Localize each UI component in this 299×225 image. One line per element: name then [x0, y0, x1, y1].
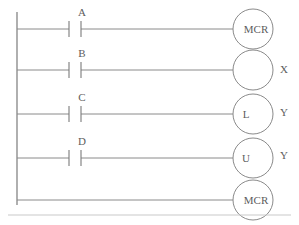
- coil-circle: [233, 94, 273, 134]
- ladder-logic-diagram: A MCR B X: [0, 0, 299, 225]
- rung-4: D U Y: [17, 135, 288, 178]
- rung-5: MCR: [17, 180, 273, 220]
- coil-circle: [233, 50, 273, 90]
- rung-1-coil-inner-label: MCR: [244, 23, 269, 35]
- ladder-diagram-canvas: A MCR B X: [0, 0, 299, 225]
- rung-1-contact-A[interactable]: [69, 21, 81, 37]
- rung-3-coil[interactable]: L: [233, 94, 273, 134]
- rung-2-coil[interactable]: [233, 50, 273, 90]
- rung-3-contact-label: C: [78, 91, 85, 103]
- rung-2-contact-label: B: [78, 47, 85, 59]
- rung-1: A MCR: [17, 6, 273, 49]
- rung-4-contact-label: D: [78, 135, 86, 147]
- rung-4-coil[interactable]: U: [233, 138, 273, 178]
- rung-1-coil[interactable]: MCR: [233, 9, 273, 49]
- rung-2: B X: [17, 47, 288, 90]
- rung-3-coil-inner-label: L: [243, 108, 250, 120]
- rung-3-contact-C[interactable]: [69, 106, 81, 122]
- rung-1-contact-label: A: [78, 6, 86, 18]
- rung-4-contact-D[interactable]: [69, 150, 81, 166]
- rung-3-coil-side-label: Y: [280, 106, 288, 118]
- rung-4-coil-side-label: Y: [280, 149, 288, 161]
- rung-4-coil-inner-label: U: [242, 152, 250, 164]
- rung-3: C L Y: [17, 91, 288, 134]
- rung-5-coil[interactable]: MCR: [233, 180, 273, 220]
- rung-5-coil-inner-label: MCR: [244, 194, 269, 206]
- rung-2-contact-B[interactable]: [69, 62, 81, 78]
- rung-2-coil-side-label: X: [280, 63, 288, 75]
- coil-circle: [233, 138, 273, 178]
